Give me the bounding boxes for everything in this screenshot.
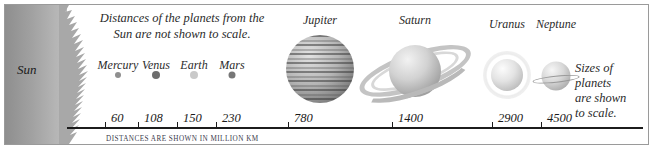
size-scale-line-1: Sizes of [575, 61, 649, 76]
axis-tick-saturn [392, 122, 393, 128]
sun-label: Sun [17, 62, 37, 78]
axis-tick-mercury [105, 122, 106, 128]
planet-body-venus [152, 71, 160, 79]
axis-tick-label-mars: 230 [222, 111, 241, 126]
planet-body-mars [229, 72, 236, 79]
distance-disclaimer-line-1: Distances of the planets from the [77, 10, 287, 26]
axis-caption: Distances are shown in million km [106, 135, 259, 143]
planet-label-neptune: Neptune [536, 17, 576, 32]
axis-tick-label-saturn: 1400 [398, 111, 423, 126]
distance-disclaimer-note: Distances of the planets from the Sun ar… [77, 10, 287, 42]
axis-tick-jupiter [288, 122, 289, 128]
planet-body-jupiter [286, 35, 354, 103]
axis-tick-label-mercury: 60 [111, 111, 124, 126]
size-scale-note: Sizes of planets are shown to scale. [575, 61, 649, 121]
size-scale-line-3: are shown [575, 91, 649, 106]
axis-tick-venus [138, 122, 139, 128]
solar-system-diagram: Sun Distances of the planets from the Su… [4, 4, 649, 145]
axis-tick-uranus [492, 122, 493, 128]
axis-tick-label-venus: 108 [144, 111, 163, 126]
distance-disclaimer-line-2: Sun are not shown to scale. [77, 26, 287, 42]
distance-axis-line [67, 127, 643, 129]
size-scale-line-4: to scale. [575, 106, 649, 121]
planet-label-jupiter: Jupiter [303, 13, 337, 28]
axis-tick-earth [177, 122, 178, 128]
planet-body-uranus [491, 59, 523, 91]
axis-tick-label-earth: 150 [183, 111, 202, 126]
planet-label-uranus: Uranus [489, 17, 525, 32]
planet-body-mercury [115, 72, 121, 78]
axis-tick-label-jupiter: 780 [294, 111, 313, 126]
axis-tick-neptune [541, 122, 542, 128]
planet-label-mercury: Mercury [98, 58, 139, 73]
planet-label-saturn: Saturn [399, 13, 431, 28]
axis-tick-mars [216, 122, 217, 128]
planet-body-earth [190, 71, 198, 79]
axis-tick-label-uranus: 2900 [498, 111, 523, 126]
axis-tick-label-neptune: 4500 [547, 111, 572, 126]
size-scale-line-2: planets [575, 76, 649, 91]
